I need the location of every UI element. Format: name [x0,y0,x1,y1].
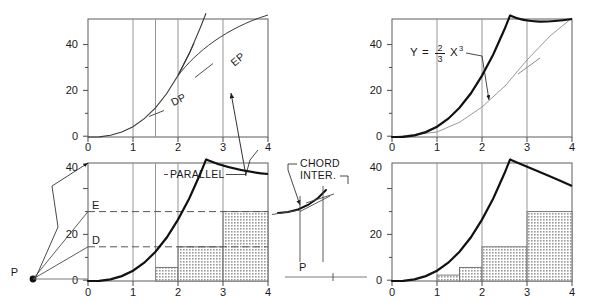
y-tick-40-top-left: 40 [66,38,78,50]
y-tick-40-bottom-left: 40 [66,161,78,173]
x-tick-2-bottom-left: 2 [175,286,181,298]
figure-canvas: 40 20 0 0 1 2 3 4 DP EP [0,0,604,303]
y-tick-40-bottom-right: 40 [370,161,382,173]
x-tick-3-top-left: 3 [220,141,226,153]
label-e: E [92,199,99,211]
x-tick-3-top-right: 3 [524,141,530,153]
x-tick-3-bottom-left: 3 [220,286,226,298]
x-tick-2-bottom-right: 2 [479,286,485,298]
y-tick-20-top-left: 20 [66,84,78,96]
step-rect-br-1 [437,275,460,281]
x-tick-2-top-left: 2 [175,141,181,153]
x-tick-0-bottom-right: 0 [389,286,395,298]
x-tick-0-bottom-left: 0 [85,286,91,298]
x-tick-4-bottom-left: 4 [265,286,271,298]
y-tick-0-top-right: 0 [376,130,382,142]
y-tick-0-top-left: 0 [72,130,78,142]
formula-equals: = [422,46,429,58]
x-tick-1-bottom-left: 1 [130,286,136,298]
step-rect-br-3 [482,247,527,281]
y-tick-20-bottom-right: 20 [370,228,382,240]
step-rect-1 [156,267,179,281]
y-tick-20-bottom-left: 20 [66,228,78,240]
label-chord: CHORD [300,157,340,169]
x-tick-3-bottom-right: 3 [524,286,530,298]
y-tick-20-top-right: 20 [370,84,382,96]
label-d: D [92,234,100,246]
label-inter: INTER. [300,169,336,181]
label-parallel: PARALLEL [170,168,225,180]
formula-variable: X [450,46,458,58]
x-tick-1-top-left: 1 [130,141,136,153]
x-tick-4-top-right: 4 [569,141,575,153]
y-tick-0-bottom-right: 0 [376,274,382,286]
x-tick-4-top-left: 4 [265,141,271,153]
x-tick-0-top-left: 0 [85,141,91,153]
label-p-bottom-left: P [11,266,18,278]
step-rect-2 [178,247,223,281]
x-tick-2-top-right: 2 [479,141,485,153]
x-tick-4-bottom-right: 4 [569,286,575,298]
label-p-center: P [299,261,306,273]
x-tick-0-top-right: 0 [389,141,395,153]
formula-lhs: Y [410,46,418,58]
formula-denominator: 3 [437,54,442,64]
x-tick-1-top-right: 1 [434,141,440,153]
formula-numerator: 2 [437,43,442,53]
technical-figure: 40 20 0 0 1 2 3 4 DP EP [0,0,604,303]
y-tick-40-top-right: 40 [370,38,382,50]
step-rect-br-2 [460,267,483,281]
x-tick-1-bottom-right: 1 [434,286,440,298]
y-tick-0-bottom-left: 0 [72,274,78,286]
formula-exponent: 3 [459,44,463,53]
step-rect-br-4 [527,212,572,281]
